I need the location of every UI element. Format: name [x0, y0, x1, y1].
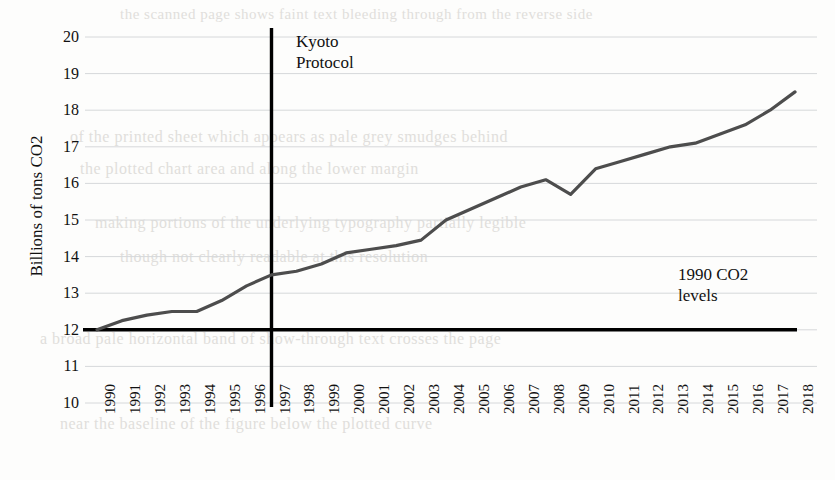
- y-axis-tick-label: 17: [45, 139, 79, 155]
- x-axis-tick-label: 2011: [627, 385, 642, 414]
- x-axis-tick-label: 1996: [253, 384, 268, 414]
- x-axis-tick-label: 2004: [452, 384, 467, 414]
- x-axis-tick-label: 1999: [327, 384, 342, 414]
- x-axis-tick-label: 2017: [776, 384, 791, 414]
- x-axis-tick-label: 1994: [203, 384, 218, 414]
- x-axis-tick-label: 1997: [278, 384, 293, 414]
- y-axis-tick-label: 16: [45, 175, 79, 191]
- x-axis-tick-label: 2009: [577, 384, 592, 414]
- x-axis-tick-label: 1993: [178, 384, 193, 414]
- y-axis-tick-label: 20: [45, 29, 79, 45]
- x-axis-tick-label: 2013: [676, 384, 691, 414]
- y-axis-tick-label: 15: [45, 212, 79, 228]
- y-axis-tick-label: 13: [45, 285, 79, 301]
- x-axis-tick-label: 1990: [103, 384, 118, 414]
- kyoto-protocol-annotation: Kyoto Protocol: [296, 31, 354, 74]
- chart-figure: the scanned page shows faint text bleedi…: [0, 0, 835, 480]
- reference-lines-group: [83, 28, 797, 407]
- x-axis-tick-label: 2007: [527, 384, 542, 414]
- y-axis-title: Billions of tons CO2: [27, 101, 47, 311]
- y-axis-tick-label: 19: [45, 66, 79, 82]
- x-axis-tick-label: 2018: [801, 384, 816, 414]
- x-axis-tick-label: 1998: [302, 384, 317, 414]
- y-axis-tick-label: 18: [45, 102, 79, 118]
- x-axis-tick-label: 2000: [352, 384, 367, 414]
- y-axis-tick-label: 14: [45, 249, 79, 265]
- x-axis-tick-label: 1995: [228, 384, 243, 414]
- baseline-1990-annotation: 1990 CO2 levels: [678, 264, 748, 307]
- x-axis-tick-label: 2015: [726, 384, 741, 414]
- x-axis-tick-label: 2008: [552, 384, 567, 414]
- x-axis-tick-label: 2014: [701, 384, 716, 414]
- gridlines-group: [85, 37, 817, 403]
- x-axis-tick-label: 2006: [502, 384, 517, 414]
- x-axis-tick-label: 2002: [402, 384, 417, 414]
- x-axis-tick-label: 1991: [128, 384, 143, 414]
- x-axis-tick-label: 2005: [477, 384, 492, 414]
- x-axis-tick-label: 2010: [602, 384, 617, 414]
- y-axis-tick-label: 11: [45, 358, 79, 374]
- x-axis-tick-label: 2016: [751, 384, 766, 414]
- y-axis-tick-label: 12: [45, 322, 79, 338]
- x-axis-tick-label: 2012: [651, 384, 666, 414]
- y-axis-tick-label: 10: [45, 395, 79, 411]
- x-axis-tick-label: 2001: [377, 384, 392, 414]
- x-axis-tick-label: 2003: [427, 384, 442, 414]
- x-axis-tick-label: 1992: [153, 384, 168, 414]
